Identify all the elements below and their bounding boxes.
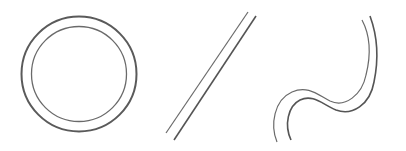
diagonal-line-left (166, 12, 248, 133)
double-diagonal-line (166, 12, 256, 140)
s-curve-inner (288, 16, 377, 140)
shapes-svg (0, 0, 406, 151)
double-circle (22, 17, 137, 132)
diagonal-line-right (174, 16, 256, 140)
double-s-curve (274, 16, 377, 142)
shapes-canvas: Three double-stroked line shapes (0, 0, 406, 151)
outer-circle (22, 17, 137, 132)
inner-circle (32, 27, 127, 122)
